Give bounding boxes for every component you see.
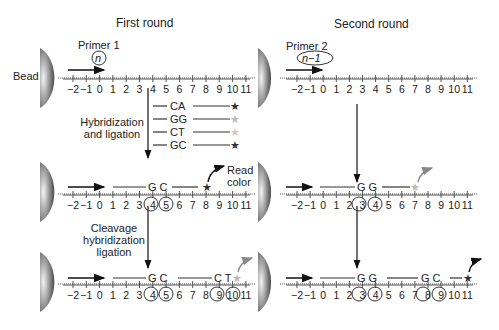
first-round-header: First round [116,17,173,29]
bead-label: Bead [13,70,39,82]
cleavage-label: Cleavage hybridization ligation [82,222,146,258]
primer2-tag: n−1 [302,52,321,64]
second-round-header: Second round [334,18,409,30]
cleavage-line3: ligation [82,246,146,258]
tick-label: 11 [238,199,254,211]
cleavage-line1: Cleavage [82,222,146,234]
tick-label: 11 [238,83,254,95]
primer2-label: Primer 2 [286,40,328,52]
probe-stars: ★ ★ ★ ★ [230,100,240,151]
probe-lines [153,106,230,145]
seq-label: G C [148,181,168,193]
cleavage-line2: hybridization [82,234,146,246]
svg-text:★: ★ [230,113,240,125]
svg-text:★: ★ [230,126,240,138]
hybridization-line2: and ligation [76,128,148,140]
svg-text:★: ★ [232,272,242,284]
read-line2: color [227,176,253,188]
primer1-label: Primer 1 [78,39,120,51]
probe-seq: CT [170,126,185,138]
seq-label: G G [357,181,377,193]
read-color-label: Read color [227,164,253,188]
tick-label: 11 [459,83,475,95]
svg-text:★: ★ [202,181,212,193]
svg-text:★: ★ [410,181,420,193]
tick-label: 11 [459,199,475,211]
probe-seq: GC [170,139,187,151]
seq-label: G C [421,272,441,284]
tick-label: 11 [238,289,254,301]
probe-seq: CA [170,100,185,112]
svg-text:★: ★ [463,272,473,284]
seq-label: G G [357,272,377,284]
svg-text:★: ★ [230,139,240,151]
svg-text:★: ★ [230,100,240,112]
probe-seq: GG [170,113,187,125]
hybridization-line1: Hybridization [76,116,148,128]
seq-label: C T [214,272,232,284]
hybridization-label: Hybridization and ligation [76,116,148,140]
tick-label: 11 [459,289,475,301]
read-line1: Read [227,164,253,176]
seq-label: G C [148,272,168,284]
read-stars: ★ ★ ★ ★ [202,181,473,284]
primer1-tag: n [95,52,101,64]
